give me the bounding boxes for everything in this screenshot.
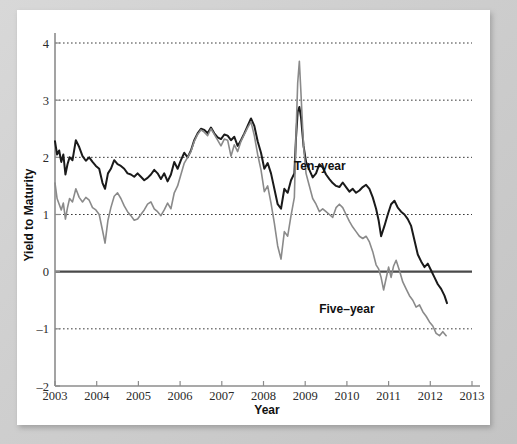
figure-card: 2003200420052006200720082009201020112012… bbox=[17, 10, 490, 425]
y-tick-label-2: 2 bbox=[43, 151, 49, 165]
x-tick-label-2008: 2008 bbox=[251, 389, 276, 403]
y-tick-label-1: 1 bbox=[43, 208, 49, 222]
x-tick-label-2013: 2013 bbox=[460, 389, 485, 403]
y-tick-label--2: –2 bbox=[36, 380, 50, 394]
x-tick-label-2010: 2010 bbox=[334, 389, 359, 403]
y-axis-title: Yield to Maturity bbox=[22, 168, 36, 261]
x-tick-label-2005: 2005 bbox=[126, 389, 151, 403]
series-label-ten-year: Ten–year bbox=[294, 159, 346, 173]
x-tick-label-2007: 2007 bbox=[209, 389, 234, 403]
y-tick-label-4: 4 bbox=[43, 37, 50, 51]
y-tick-label--1: –1 bbox=[36, 322, 50, 336]
series-line-five-year bbox=[55, 61, 446, 335]
x-tick-label-2011: 2011 bbox=[376, 389, 401, 403]
x-axis-title: Year bbox=[254, 403, 280, 417]
series-lines bbox=[55, 61, 447, 335]
x-tick-label-2009: 2009 bbox=[293, 389, 318, 403]
series-annotations: Ten–yearFive–year bbox=[294, 159, 375, 316]
y-tick-labels: 43210–1–2 bbox=[36, 37, 50, 394]
x-tick-label-2004: 2004 bbox=[84, 389, 110, 403]
x-tick-label-2012: 2012 bbox=[418, 389, 443, 403]
x-tick-label-2006: 2006 bbox=[168, 389, 193, 403]
series-label-five-year: Five–year bbox=[319, 302, 375, 316]
figure-frame: 2003200420052006200720082009201020112012… bbox=[0, 0, 517, 444]
yield-curve-chart: 2003200420052006200720082009201020112012… bbox=[17, 10, 490, 425]
y-tick-label-3: 3 bbox=[43, 94, 49, 108]
y-tick-label-0: 0 bbox=[43, 265, 49, 279]
series-line-ten-year bbox=[55, 107, 447, 303]
axes bbox=[55, 33, 480, 386]
x-tick-labels: 2003200420052006200720082009201020112012… bbox=[43, 389, 485, 403]
